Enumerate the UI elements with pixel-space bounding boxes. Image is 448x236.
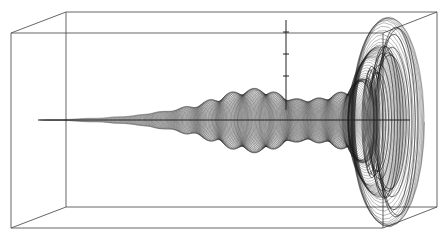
horn-trajectory-plot — [0, 0, 448, 236]
box-edge — [11, 12, 66, 33]
trajectory-path — [40, 17, 425, 227]
box-edge — [11, 207, 66, 228]
spiral-trajectory — [40, 17, 425, 227]
plot-canvas — [0, 0, 448, 236]
